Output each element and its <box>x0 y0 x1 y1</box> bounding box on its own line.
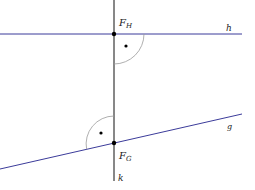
label-k: k <box>118 173 123 183</box>
point-fg <box>112 141 116 145</box>
label-fg: FG <box>118 150 132 163</box>
right-angle-dot-fh <box>124 44 127 47</box>
label-h: h <box>226 23 232 33</box>
point-fh <box>112 32 116 36</box>
label-g: g <box>227 122 232 131</box>
right-angle-dot-fg <box>99 131 102 134</box>
right-angle-arc-fh <box>114 34 144 64</box>
label-fh: FH <box>118 17 133 30</box>
perpendicular-foot-diagram: FH FG h g k <box>0 0 255 190</box>
